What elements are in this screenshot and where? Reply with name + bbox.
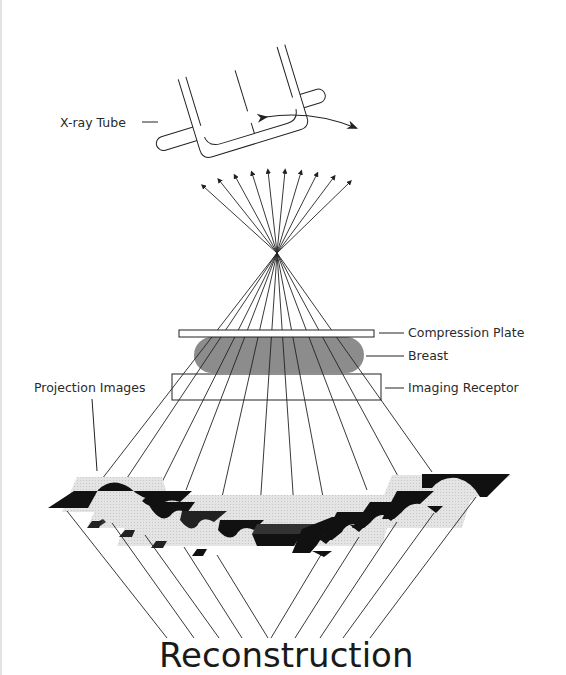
tomosynthesis-diagram: X-ray Tube Compression Plate Br xyxy=(2,0,566,675)
label-breast: Breast xyxy=(408,348,448,363)
compression-plate xyxy=(179,330,374,337)
projection-images xyxy=(48,474,512,557)
reconstruction-title: Reconstruction xyxy=(159,635,413,675)
xray-tube-icon xyxy=(139,38,332,172)
source-rays xyxy=(203,171,350,253)
label-projection-images: Projection Images xyxy=(34,380,145,395)
label-xray-tube: X-ray Tube xyxy=(60,115,126,130)
label-compression-plate: Compression Plate xyxy=(408,325,525,340)
leader-projection-images xyxy=(92,399,97,471)
diagram-frame: X-ray Tube Compression Plate Br xyxy=(0,0,566,675)
label-imaging-receptor: Imaging Receptor xyxy=(408,380,520,395)
